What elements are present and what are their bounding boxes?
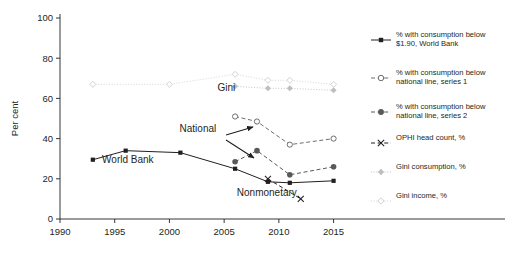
data-point-filled-square xyxy=(124,149,128,153)
data-point-filled-square xyxy=(266,180,270,184)
x-tick-label: 2010 xyxy=(268,226,289,237)
data-point-open-diamond xyxy=(90,81,96,87)
series-2 xyxy=(232,148,336,178)
series-1 xyxy=(232,114,336,147)
x-tick-label: 2015 xyxy=(323,226,344,237)
annotation-label: World Bank xyxy=(102,154,155,165)
y-tick-label: 80 xyxy=(42,53,53,64)
legend-item[interactable]: Gini income, % xyxy=(370,191,510,202)
annotation-arrow xyxy=(226,140,254,158)
y-tick-label: 40 xyxy=(42,133,53,144)
data-point-open-circle xyxy=(254,119,259,124)
x-tick-label: 2005 xyxy=(214,226,235,237)
data-point-filled-diamond xyxy=(331,87,337,93)
legend-item[interactable]: % with consumption below national line, … xyxy=(370,102,510,121)
y-tick-label: 100 xyxy=(37,12,53,23)
data-point-filled-circle xyxy=(378,109,384,115)
data-point-filled-square xyxy=(91,158,95,162)
data-point-open-diamond xyxy=(331,81,337,87)
data-point-filled-square xyxy=(233,167,237,171)
series-line xyxy=(93,74,334,84)
data-point-cross-x xyxy=(298,196,304,202)
data-point-filled-square xyxy=(288,181,292,185)
legend-marker-filled-circle-icon xyxy=(370,103,396,113)
legend-marker-cross-x-icon xyxy=(370,134,396,144)
legend-item-label: OPHI head count, % xyxy=(396,133,465,142)
x-tick-label: 2000 xyxy=(159,226,180,237)
annotation-label: National xyxy=(180,123,217,134)
data-point-filled-circle xyxy=(287,172,293,178)
y-axis-title: Per cent xyxy=(9,100,20,136)
x-tick-label: 1995 xyxy=(104,226,125,237)
annotation-label: Gini xyxy=(217,82,235,93)
data-point-open-circle xyxy=(331,136,336,141)
data-point-open-diamond xyxy=(378,198,384,204)
y-tick-label: 60 xyxy=(42,93,53,104)
data-point-open-diamond xyxy=(166,81,172,87)
data-point-filled-circle xyxy=(232,159,238,165)
data-point-open-circle xyxy=(232,114,237,119)
legend-item-label: % with consumption below national line, … xyxy=(396,102,485,121)
series-5 xyxy=(90,71,337,87)
data-point-filled-diamond xyxy=(287,85,293,91)
data-point-open-diamond xyxy=(265,77,271,83)
y-tick-label: 0 xyxy=(48,213,53,224)
data-point-open-diamond xyxy=(287,77,293,83)
legend-item-label: % with consumption below national line, … xyxy=(396,68,485,87)
legend-item-label: Gini income, % xyxy=(396,191,447,200)
series-line xyxy=(235,151,333,175)
data-point-filled-circle xyxy=(254,148,260,154)
legend-marker-filled-diamond-icon xyxy=(370,163,396,173)
data-point-open-diamond xyxy=(232,71,238,77)
data-point-filled-square xyxy=(331,179,335,183)
series-line xyxy=(235,86,333,90)
series-group xyxy=(90,71,337,202)
data-point-filled-circle xyxy=(331,164,337,170)
data-point-filled-square xyxy=(178,151,182,155)
legend-item-label: Gini consumption, % xyxy=(396,162,466,171)
legend-item[interactable]: % with consumption below $1.90, World Ba… xyxy=(370,30,510,49)
legend-marker-filled-square-icon xyxy=(370,31,396,41)
legend-marker-open-diamond-icon xyxy=(370,192,396,202)
legend-item[interactable]: % with consumption below national line, … xyxy=(370,68,510,87)
chart-container: 020406080100199019952000200520102015Per … xyxy=(0,0,510,258)
legend-item[interactable]: Gini consumption, % xyxy=(370,162,510,173)
series-4 xyxy=(232,83,336,93)
annotation-label: Nonmonetary xyxy=(237,187,297,198)
annotation-arrow xyxy=(226,127,253,135)
data-point-filled-square xyxy=(379,38,383,42)
y-tick-label: 20 xyxy=(42,173,53,184)
data-point-filled-diamond xyxy=(378,169,384,175)
data-point-open-circle xyxy=(378,75,383,80)
data-point-open-circle xyxy=(287,142,292,147)
legend-item[interactable]: OPHI head count, % xyxy=(370,133,510,144)
legend-marker-open-circle-icon xyxy=(370,69,396,79)
legend-item-label: % with consumption below $1.90, World Ba… xyxy=(396,30,485,49)
series-line xyxy=(235,116,333,144)
data-point-filled-diamond xyxy=(265,85,271,91)
x-tick-label: 1990 xyxy=(49,226,70,237)
